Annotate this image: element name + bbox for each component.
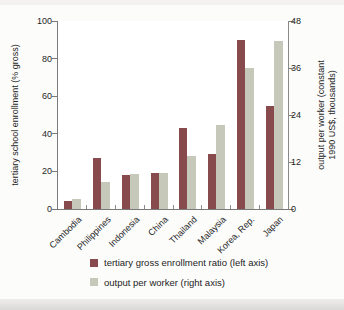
enrollment-swatch-icon [90,259,98,267]
page-edge-bottom [0,299,344,310]
left-axis-tick [52,21,57,22]
bar-output-thailand [187,156,196,209]
bar-chart-figure: tertiary school enrollment (% gross) 020… [0,0,344,310]
bar-enrollment-korea-rep- [237,40,245,209]
legend-item-enrollment: tertiary gross enrollment ratio (left ax… [90,258,268,268]
bar-output-korea-rep- [245,68,254,209]
bar-enrollment-philippines [93,158,101,209]
right-axis-title-line1: output per worker (constant [316,60,327,170]
right-axis-tick-label: 36 [291,64,315,73]
category-label: Thailand [168,215,199,246]
right-axis-tick-label: 48 [291,17,315,26]
x-axis-tick [259,205,260,209]
left-axis-tick [52,171,57,172]
bar-enrollment-indonesia [122,175,130,209]
left-axis-tick-label: 40 [24,129,52,138]
bar-enrollment-malaysia [208,154,216,209]
x-axis-tick [86,205,87,209]
bar-output-indonesia [130,174,139,209]
right-axis-title-line2: 1990 US$, thousands) [327,60,338,170]
legend-label-enrollment: tertiary gross enrollment ratio (left ax… [104,258,268,268]
bar-output-china [159,173,168,209]
legend-item-output: output per worker (right axis) [90,278,268,288]
x-axis-tick [144,205,145,209]
output-swatch-icon [90,278,98,286]
x-axis-tick [230,205,231,209]
left-axis-title: tertiary school enrollment (% gross) [10,44,21,186]
plot-area: 020406080100012243648CambodiaPhilippines… [57,21,289,210]
bar-enrollment-japan [266,106,274,209]
x-axis-tick [201,205,202,209]
left-axis-tick [52,58,57,59]
bar-enrollment-thailand [179,128,187,209]
bar-enrollment-cambodia [64,201,72,209]
category-label: Japan [261,215,285,239]
left-axis-tick-label: 80 [24,54,52,63]
right-axis-tick-label: 12 [291,158,315,167]
page-edge-top [0,0,344,5]
bar-output-cambodia [72,199,81,209]
left-axis-tick [52,209,57,210]
category-label: China [147,215,170,238]
legend: tertiary gross enrollment ratio (left ax… [90,258,268,287]
bar-output-philippines [101,182,110,209]
left-axis-tick-label: 100 [24,17,52,26]
left-axis-tick-label: 60 [24,92,52,101]
left-axis-tick-label: 20 [24,167,52,176]
right-axis-tick-label: 24 [291,111,315,120]
left-axis-tick [52,133,57,134]
right-axis-tick-label: 0 [291,205,315,214]
bar-enrollment-china [151,173,159,209]
right-axis-title: output per worker (constant 1990 US$, th… [316,60,338,170]
bar-output-japan [274,41,283,209]
x-axis-tick [115,205,116,209]
x-axis-tick [173,205,174,209]
bar-output-malaysia [216,125,225,209]
left-axis-tick [52,96,57,97]
left-axis-tick-label: 0 [24,205,52,214]
legend-label-output: output per worker (right axis) [104,278,225,288]
